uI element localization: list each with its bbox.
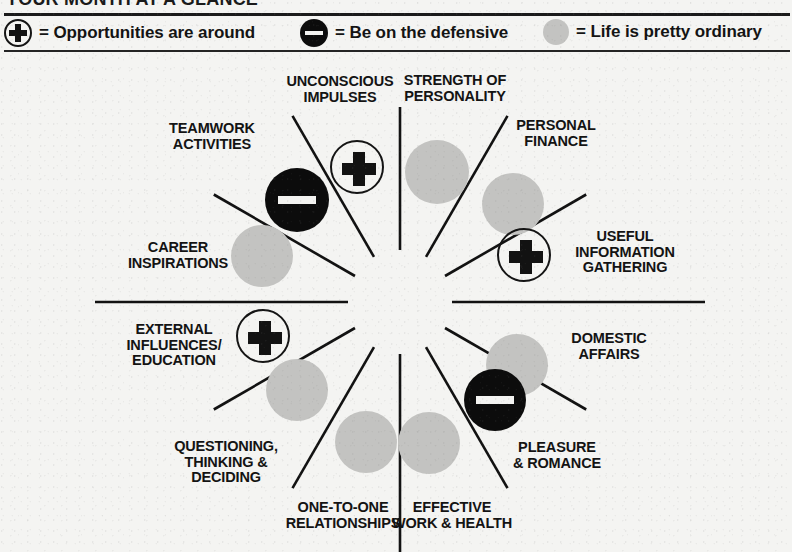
sector-label-domestic-affairs: DOMESTIC AFFAIRS	[571, 331, 646, 362]
gray-circle-icon	[405, 140, 469, 204]
title-bar: YOUR MONTH AT A GLANCE	[0, 0, 792, 12]
sector-label-effective-work-health: EFFECTIVE WORK & HEALTH	[392, 500, 512, 531]
sector-symbol-one-to-one	[335, 411, 397, 473]
page-root: YOUR MONTH AT A GLANCE = Opportunities a…	[0, 0, 792, 552]
sector-symbol-external-influences	[236, 309, 290, 363]
sector-symbol-useful-information	[497, 228, 551, 282]
legend-item-ordinary: = Life is pretty ordinary	[543, 19, 762, 45]
sector-symbol-pleasure-romance	[464, 369, 526, 431]
plus-circle-icon	[4, 19, 32, 47]
sector-label-strength-of-personality: STRENGTH OF PERSONALITY	[404, 73, 506, 104]
sector-symbol-questioning-thinking	[266, 359, 328, 421]
gray-circle-icon	[398, 412, 460, 474]
gray-circle-icon	[482, 173, 544, 235]
legend-item-defensive: = Be on the defensive	[300, 19, 508, 47]
legend: = Opportunities are around = Be on the d…	[0, 16, 792, 52]
sector-symbol-teamwork-activities	[265, 168, 329, 232]
plus-circle-icon	[497, 228, 551, 282]
sector-label-one-to-one: ONE-TO-ONE RELATIONSHIPS	[286, 500, 401, 531]
wheel-spokes	[0, 52, 792, 552]
legend-label-ordinary: = Life is pretty ordinary	[576, 22, 762, 42]
page-title: YOUR MONTH AT A GLANCE	[6, 0, 258, 10]
sector-label-unconscious-impulses: UNCONSCIOUS IMPULSES	[286, 74, 393, 105]
sector-label-pleasure-romance: PLEASURE & ROMANCE	[513, 440, 601, 471]
minus-circle-icon	[265, 168, 329, 232]
plus-circle-icon	[236, 309, 290, 363]
sector-label-personal-finance: PERSONAL FINANCE	[516, 118, 595, 149]
gray-circle-icon	[231, 225, 293, 287]
gray-circle-icon	[266, 359, 328, 421]
gray-circle-icon	[335, 411, 397, 473]
sector-symbol-strength-of-personality	[405, 140, 469, 204]
sector-label-questioning-thinking: QUESTIONING, THINKING & DECIDING	[174, 439, 278, 486]
sector-symbol-unconscious-impulses	[330, 140, 384, 194]
plus-circle-icon	[330, 140, 384, 194]
sector-label-teamwork-activities: TEAMWORK ACTIVITIES	[169, 121, 255, 152]
month-wheel-diagram: UNCONSCIOUS IMPULSESSTRENGTH OF PERSONAL…	[0, 52, 792, 552]
legend-label-opportunities: = Opportunities are around	[39, 23, 255, 43]
legend-label-defensive: = Be on the defensive	[335, 23, 508, 43]
minus-circle-icon	[464, 369, 526, 431]
sector-symbol-effective-work-health	[398, 412, 460, 474]
sector-symbol-personal-finance	[482, 173, 544, 235]
sector-label-external-influences: EXTERNAL INFLUENCES/ EDUCATION	[126, 322, 221, 369]
sector-symbol-career-inspirations	[231, 225, 293, 287]
legend-item-opportunities: = Opportunities are around	[4, 19, 255, 47]
minus-circle-icon	[300, 19, 328, 47]
sector-label-useful-information: USEFUL INFORMATION GATHERING	[575, 229, 675, 276]
gray-circle-icon	[543, 19, 569, 45]
sector-label-career-inspirations: CAREER INSPIRATIONS	[128, 240, 228, 271]
